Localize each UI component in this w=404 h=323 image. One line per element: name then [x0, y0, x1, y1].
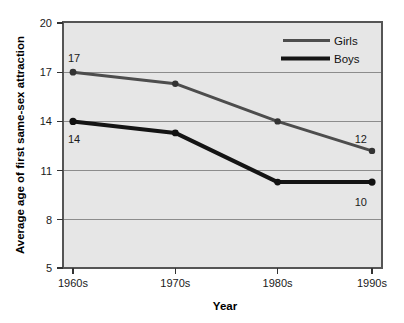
y-tick-label-11: 11 — [41, 165, 52, 177]
annotation-boys-first: 14 — [68, 133, 80, 145]
annotation-boys-last: 10 — [355, 196, 367, 208]
y-tick-label-17: 17 — [40, 66, 52, 78]
y-tick-label-14: 14 — [40, 115, 52, 127]
chart-figure: 5 8 11 14 17 20 1960s 1970s 1980s 1990s … — [0, 0, 404, 323]
x-tick-label-1990s: 1990s — [357, 277, 387, 289]
girls-point-1970s — [172, 81, 178, 87]
boys-point-1990s — [368, 179, 375, 186]
y-tick-label-20: 20 — [40, 17, 52, 29]
boys-point-1970s — [172, 130, 179, 137]
legend-label-girls: Girls — [334, 35, 358, 47]
boys-point-1980s — [274, 179, 281, 186]
girls-point-1980s — [274, 118, 280, 124]
y-tick-label-8: 8 — [46, 214, 52, 226]
annotation-girls-first: 17 — [68, 52, 80, 64]
x-axis-title: Year — [213, 300, 238, 312]
y-axis-title: Average age of first same-sex attraction — [14, 36, 26, 254]
x-tick-label-1960s: 1960s — [58, 277, 88, 289]
girls-point-1990s — [369, 148, 375, 154]
legend-label-boys: Boys — [334, 53, 360, 65]
line-chart: 5 8 11 14 17 20 1960s 1970s 1980s 1990s … — [0, 0, 404, 323]
x-tick-label-1970s: 1970s — [160, 277, 190, 289]
x-tick-label-1980s: 1980s — [263, 277, 293, 289]
annotation-girls-last: 12 — [355, 133, 367, 145]
boys-point-1960s — [69, 118, 76, 125]
y-tick-label-5: 5 — [46, 262, 52, 274]
girls-point-1960s — [70, 69, 77, 76]
